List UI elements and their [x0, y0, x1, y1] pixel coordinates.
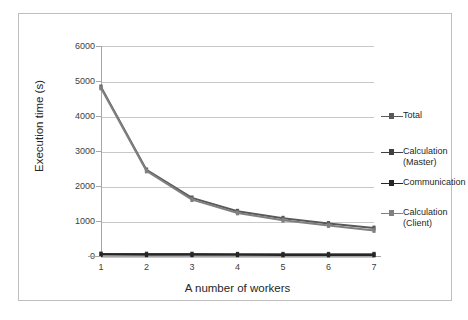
y-tick-label: 5000 — [75, 76, 95, 86]
legend-label: Calculation (Client) — [403, 207, 448, 228]
legend-item-2[interactable]: Calculation (Master) — [381, 146, 448, 167]
legend-swatch-icon — [381, 111, 403, 121]
y-tick-label: 3000 — [75, 146, 95, 156]
legend-item-4[interactable]: Calculation (Client) — [381, 207, 448, 228]
series-marker — [281, 218, 284, 223]
chart-frame: 6000500040003000200010000 Execution time… — [18, 13, 452, 301]
chart-figure: 6000500040003000200010000 Execution time… — [0, 0, 468, 320]
series-marker — [327, 223, 330, 228]
series-marker — [281, 253, 284, 258]
series-marker — [190, 197, 193, 202]
legend-label: Communication — [403, 177, 466, 188]
x-tick-label: 2 — [137, 262, 157, 273]
series-marker — [145, 252, 148, 257]
y-axis-tick-labels: 6000500040003000200010000 — [49, 14, 95, 302]
x-tick-label: 6 — [319, 262, 339, 273]
series-marker — [236, 252, 239, 257]
x-axis-title: A number of workers — [101, 282, 374, 294]
x-tick-label: 3 — [182, 262, 202, 273]
x-tick-label: 5 — [273, 262, 293, 273]
series-marker — [372, 253, 375, 258]
legend-label: Calculation (Master) — [403, 146, 448, 167]
series-marker — [190, 252, 193, 257]
legend-item-3[interactable]: Communication — [381, 177, 466, 188]
y-tick-label: 6000 — [75, 41, 95, 51]
y-tick-mark — [96, 186, 101, 187]
series-marker — [372, 228, 375, 233]
y-tick-mark — [96, 116, 101, 117]
series-4 — [99, 86, 375, 233]
series-3 — [99, 252, 375, 257]
y-tick-mark — [96, 221, 101, 222]
legend-label: Total — [403, 110, 422, 121]
series-marker — [99, 86, 102, 91]
legend-item-1[interactable]: Total — [381, 110, 422, 121]
series-1 — [99, 85, 375, 231]
y-tick-label: 4000 — [75, 111, 95, 121]
series-lines — [101, 46, 374, 257]
series-marker — [327, 253, 330, 258]
legend-swatch-icon — [381, 178, 403, 188]
y-tick-label: 2000 — [75, 181, 95, 191]
x-tick-label: 1 — [91, 262, 111, 273]
y-tick-label: 1000 — [75, 216, 95, 226]
y-tick-mark — [96, 46, 101, 47]
legend-swatch-icon — [381, 147, 403, 157]
y-tick-mark — [96, 151, 101, 152]
x-tick-label: 7 — [364, 262, 384, 273]
y-tick-mark — [96, 81, 101, 82]
legend-swatch-icon — [381, 208, 403, 218]
series-line — [101, 87, 374, 228]
y-tick-mark — [96, 256, 101, 257]
y-axis-title: Execution time (s) — [33, 70, 45, 182]
series-marker — [236, 211, 239, 216]
x-tick-label: 4 — [228, 262, 248, 273]
series-marker — [145, 169, 148, 174]
